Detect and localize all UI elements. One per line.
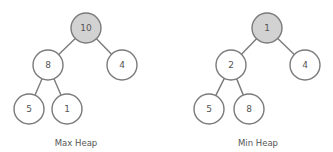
heap-diagram-canvas: 108451 12458 Max Heap Min Heap (0, 0, 333, 152)
max-heap-node-value: 1 (64, 104, 70, 114)
min-heap-edge-l-ll (216, 78, 225, 95)
max-heap-edge-l-ll (35, 79, 42, 95)
min-heap-edge-l-lr (237, 79, 244, 95)
min-heap-node-value: 4 (302, 60, 308, 70)
max-heap-node-value: 4 (119, 60, 125, 70)
max-heap-node-value: 5 (26, 104, 32, 114)
min-heap-edge-root-r (278, 38, 295, 54)
max-heap-node-value: 8 (45, 60, 51, 70)
max-heap-edge-root-l (59, 38, 76, 54)
min-heap-node-value: 2 (228, 60, 234, 70)
max-heap-edge-l-lr (54, 79, 61, 95)
max-heap-edge-root-r (96, 39, 111, 54)
min-heap-node-value: 8 (246, 104, 252, 114)
min-heap-node-value: 5 (206, 104, 212, 114)
min-heap-edge-root-l (241, 39, 256, 54)
min-heap-tree: 12458 (194, 13, 320, 124)
min-heap-node-value: 1 (264, 23, 270, 33)
min-heap-caption: Min Heap (238, 138, 278, 148)
max-heap-node-value: 10 (80, 23, 92, 33)
max-heap-tree: 108451 (14, 13, 137, 124)
max-heap-caption: Max Heap (55, 138, 98, 148)
